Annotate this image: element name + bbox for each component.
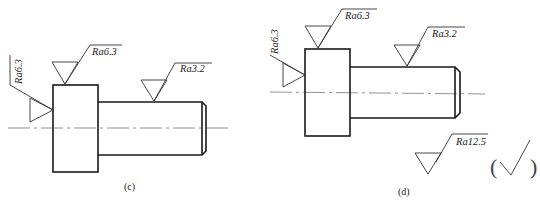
figure-c: Ra6.3 Ra6.3 Ra3.2 (c) xyxy=(8,45,230,193)
check-mark-icon xyxy=(500,140,530,175)
roughness-symbol-left: Ra6.3 xyxy=(269,29,305,87)
roughness-label-top: Ra6.3 xyxy=(344,10,370,21)
roughness-label-shaft: Ra3.2 xyxy=(431,28,458,39)
roughness-symbol-shaft: Ra3.2 xyxy=(141,63,212,101)
roughness-label-left: Ra6.3 xyxy=(269,29,280,55)
shaft xyxy=(350,67,460,118)
roughness-symbol-general: Ra12.5 xyxy=(415,134,488,174)
paren-open: ( xyxy=(490,154,497,179)
roughness-symbol-top: Ra6.3 xyxy=(305,9,377,48)
roughness-symbol-shaft: Ra3.2 xyxy=(394,27,465,66)
shaft xyxy=(98,102,206,155)
paren-close: ) xyxy=(530,154,537,179)
caption-c: (c) xyxy=(124,181,135,193)
roughness-symbol-left: Ra6.3 xyxy=(10,55,53,122)
roughness-symbol-top: Ra6.3 xyxy=(52,45,122,84)
roughness-label-left: Ra6.3 xyxy=(13,59,24,85)
roughness-label-general: Ra12.5 xyxy=(455,136,486,147)
roughness-label-top: Ra6.3 xyxy=(91,46,117,57)
surface-roughness-drawing: Ra6.3 Ra6.3 Ra3.2 (c) Ra6.3 xyxy=(0,0,540,206)
centerline xyxy=(270,92,485,94)
check-mark-group: ( ) xyxy=(490,140,537,179)
roughness-label-shaft: Ra3.2 xyxy=(179,63,206,74)
figure-d: Ra6.3 Ra6.3 Ra3.2 Ra12.5 ( ) (d) xyxy=(269,9,537,198)
caption-d: (d) xyxy=(398,186,410,198)
head-block xyxy=(53,85,98,172)
